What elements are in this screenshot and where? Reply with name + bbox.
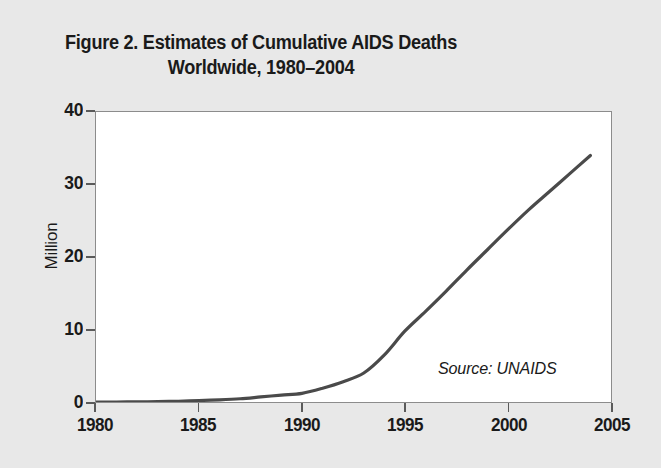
x-tick-mark [611,403,613,412]
source-annotation: Source: UNAIDS [438,359,557,379]
y-tick-label: 20 [43,245,83,267]
x-tick-label: 2005 [572,414,653,436]
x-tick-mark [404,403,406,412]
y-tick-mark [86,329,95,331]
y-tick-mark [86,183,95,185]
x-tick-label: 1995 [365,414,446,436]
x-tick-mark [508,403,510,412]
y-tick-mark [86,110,95,112]
x-tick-label: 1985 [158,414,239,436]
y-tick-label: 40 [43,99,83,121]
y-tick-label: 10 [43,318,83,340]
figure-container: Figure 2. Estimates of Cumulative AIDS D… [0,0,661,468]
y-tick-mark [86,256,95,258]
chart-title: Figure 2. Estimates of Cumulative AIDS D… [42,30,479,80]
x-tick-mark [94,403,96,412]
x-tick-mark [301,403,303,412]
x-tick-mark [198,403,200,412]
y-tick-label: 30 [43,172,83,194]
y-tick-label: 0 [43,391,83,413]
x-tick-label: 1980 [55,414,136,436]
x-tick-label: 2000 [468,414,549,436]
x-tick-label: 1990 [261,414,342,436]
